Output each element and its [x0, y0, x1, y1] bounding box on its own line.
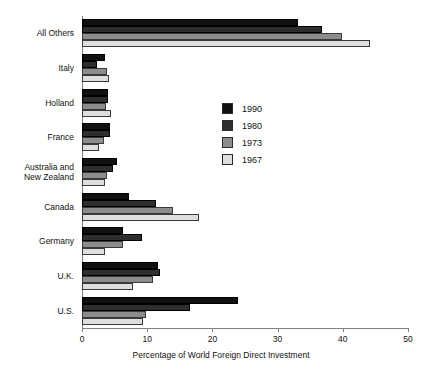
bar-1973-u.k.: [82, 276, 153, 283]
category-label: France: [48, 132, 74, 142]
bar-1980-holland: [82, 96, 108, 103]
bar-1990-germany: [82, 227, 123, 234]
category-label: Holland: [45, 98, 74, 108]
bar-1990-canada: [82, 193, 129, 200]
category-label: U.S.: [57, 306, 74, 316]
category-label: Germany: [39, 236, 74, 246]
bar-1990-u.s.: [82, 297, 238, 304]
bar-group: [82, 297, 408, 325]
x-tick: [147, 328, 148, 332]
legend-swatch-icon: [222, 137, 233, 148]
bar-1990-u.k.: [82, 262, 158, 269]
category-label: Italy: [58, 63, 74, 73]
bar-group: [82, 19, 408, 47]
legend-item: 1967: [222, 151, 262, 168]
bar-1967-italy: [82, 75, 109, 82]
legend-swatch-icon: [222, 154, 233, 165]
bar-1990-italy: [82, 54, 105, 61]
category-label: Australia and New Zealand: [24, 162, 74, 182]
legend-swatch-icon: [222, 103, 233, 114]
category-label: Canada: [44, 202, 74, 212]
x-tick-label: 40: [338, 334, 347, 344]
x-tick: [82, 328, 83, 332]
bar-1980-all-others: [82, 26, 322, 33]
plot-area: [82, 16, 408, 328]
bar-1980-france: [82, 130, 110, 137]
bar-1990-australia-and-new-zealand: [82, 158, 117, 165]
bar-1980-u.s.: [82, 304, 190, 311]
bar-1973-germany: [82, 241, 123, 248]
bar-1967-u.k.: [82, 283, 133, 290]
category-label: U.K.: [57, 271, 74, 281]
x-tick-label: 50: [403, 334, 412, 344]
bar-group: [82, 193, 408, 221]
bar-1973-canada: [82, 207, 173, 214]
legend-label: 1973: [242, 138, 262, 148]
bar-1967-all-others: [82, 40, 370, 47]
bar-1990-france: [82, 123, 110, 130]
legend-label: 1980: [242, 121, 262, 131]
bar-1967-france: [82, 144, 99, 151]
bar-1973-australia-and-new-zealand: [82, 172, 107, 179]
x-axis-line: [82, 328, 408, 329]
legend-item: 1980: [222, 117, 262, 134]
legend-swatch-icon: [222, 120, 233, 131]
legend-item: 1973: [222, 134, 262, 151]
bar-1973-france: [82, 137, 104, 144]
x-tick-label: 0: [80, 334, 85, 344]
bar-1967-holland: [82, 110, 111, 117]
legend-label: 1990: [242, 104, 262, 114]
bar-1973-holland: [82, 103, 106, 110]
bar-1980-u.k.: [82, 269, 160, 276]
bar-1973-italy: [82, 68, 107, 75]
x-tick: [343, 328, 344, 332]
x-tick-label: 20: [208, 334, 217, 344]
bar-1967-canada: [82, 214, 199, 221]
legend-item: 1990: [222, 100, 262, 117]
bar-1973-u.s.: [82, 311, 146, 318]
x-tick-label: 30: [273, 334, 282, 344]
bar-1980-germany: [82, 234, 142, 241]
bar-chart: All OthersItalyHollandFranceAustralia an…: [0, 0, 442, 373]
bar-1967-u.s.: [82, 318, 143, 325]
legend-label: 1967: [242, 155, 262, 165]
bar-1980-italy: [82, 61, 97, 68]
bar-1980-australia-and-new-zealand: [82, 165, 113, 172]
bar-1990-holland: [82, 89, 108, 96]
x-tick: [278, 328, 279, 332]
x-tick: [408, 328, 409, 332]
bar-group: [82, 54, 408, 82]
category-label: All Others: [37, 28, 74, 38]
bar-1973-all-others: [82, 33, 342, 40]
x-axis-title: Percentage of World Foreign Direct Inves…: [0, 350, 442, 360]
bar-1980-canada: [82, 200, 156, 207]
bar-group: [82, 262, 408, 290]
bar-1967-australia-and-new-zealand: [82, 179, 105, 186]
bar-group: [82, 227, 408, 255]
x-tick: [212, 328, 213, 332]
bar-1990-all-others: [82, 19, 298, 26]
bar-1967-germany: [82, 248, 105, 255]
chart-legend: 1990198019731967: [222, 100, 262, 168]
x-tick-label: 10: [142, 334, 151, 344]
